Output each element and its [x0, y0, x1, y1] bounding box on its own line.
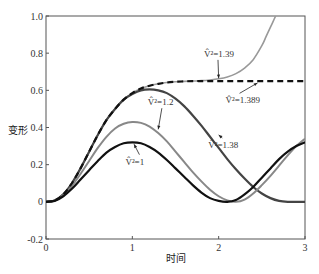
annotation-label: V̂²=1 — [125, 156, 144, 167]
y-axis-title: 变形 — [8, 124, 28, 136]
y-tick-label: 0.6 — [31, 85, 44, 96]
y-tick-label: 0.4 — [31, 122, 44, 133]
series-layer — [46, 16, 305, 202]
annotation-label: V̂²=1.389 — [226, 95, 261, 106]
annotations-layer: V̂²=1.39V̂²=1.389V̂²=1.2V̂²=1.38V̂²=1 — [125, 48, 260, 167]
arrowhead-icon — [217, 75, 220, 79]
y-tick-label: 0.2 — [31, 159, 44, 170]
annotation-label: V̂²=1.2 — [148, 96, 174, 107]
series-line — [46, 89, 305, 201]
y-tick-label: 0 — [38, 196, 43, 207]
annotation-label: V̂²=1.38 — [208, 139, 239, 150]
line-chart: -0.200.20.40.60.81.0 0123 V̂²=1.39V̂²=1.… — [0, 0, 319, 274]
y-tick-label: -0.2 — [27, 234, 43, 245]
y-tick-label: 0.8 — [31, 48, 44, 59]
x-tick-label: 3 — [303, 242, 308, 253]
annotation-label: V̂²=1.39 — [204, 48, 235, 59]
plot-frame — [46, 16, 305, 239]
x-tick-label: 1 — [130, 242, 135, 253]
y-tick-label: 1.0 — [31, 11, 44, 22]
x-tick-label: 0 — [44, 242, 49, 253]
arrowhead-icon — [157, 125, 160, 129]
x-tick-label: 2 — [216, 242, 221, 253]
x-axis-title: 时间 — [166, 252, 186, 264]
